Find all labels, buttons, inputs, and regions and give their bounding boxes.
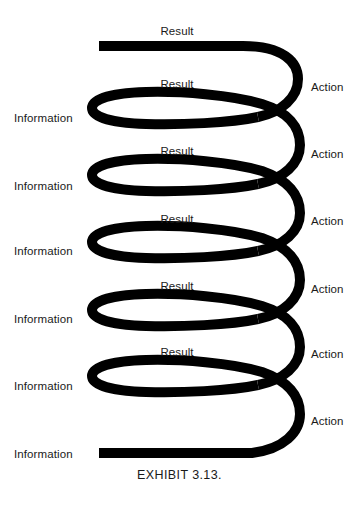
label-action-5: Action bbox=[311, 349, 344, 361]
coil-segment-tail bbox=[92, 360, 300, 453]
label-action-1: Action bbox=[311, 82, 344, 94]
label-information-6: Information bbox=[14, 449, 73, 461]
figure-caption: EXHIBIT 3.13. bbox=[0, 468, 359, 482]
label-action-4: Action bbox=[311, 284, 344, 296]
label-action-3: Action bbox=[311, 216, 344, 228]
exhibit-figure: Information Information Information Info… bbox=[0, 0, 359, 505]
label-result-1: Result bbox=[160, 26, 193, 38]
label-information-3: Information bbox=[14, 246, 73, 258]
label-action-2: Action bbox=[311, 149, 344, 161]
label-result-5: Result bbox=[160, 281, 193, 293]
label-information-2: Information bbox=[14, 181, 73, 193]
label-result-6: Result bbox=[160, 347, 193, 359]
label-result-4: Result bbox=[160, 214, 193, 226]
label-result-2: Result bbox=[160, 79, 193, 91]
spiral-coil bbox=[92, 46, 300, 453]
label-information-1: Information bbox=[14, 113, 73, 125]
label-information-4: Information bbox=[14, 314, 73, 326]
label-result-3: Result bbox=[160, 146, 193, 158]
label-action-6: Action bbox=[311, 416, 344, 428]
label-information-5: Information bbox=[14, 381, 73, 393]
